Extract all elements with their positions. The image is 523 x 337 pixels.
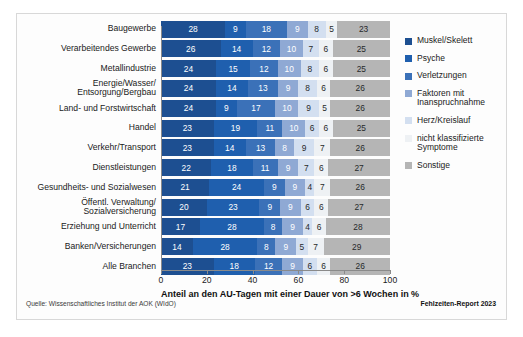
bar-segment: 7	[314, 139, 330, 156]
stacked-bar: 2124994726	[161, 179, 390, 196]
bar-segment: 9	[216, 100, 237, 117]
legend-label: Faktoren mit Inanspruchnahme	[417, 89, 485, 108]
category-label: Handel	[17, 123, 161, 132]
category-label: Dienstleistungen	[17, 163, 161, 172]
legend-swatch-icon	[405, 38, 412, 45]
stacked-bar: 2891898523	[161, 21, 390, 38]
bar-segment: 7	[298, 159, 314, 176]
x-tick	[207, 270, 208, 274]
legend-item[interactable]: Muskel/Skelett	[405, 36, 515, 46]
legend-label: nicht klassifizierte Symptome	[417, 134, 484, 153]
bar-segment: 26	[161, 40, 221, 57]
bar-segment: 6	[314, 199, 328, 216]
bar-segment: 10	[275, 100, 298, 117]
bar-segment: 8	[275, 139, 293, 156]
bar-segment: 26	[330, 100, 390, 117]
bar-segment: 19	[214, 120, 258, 137]
bar-segment: 7	[308, 238, 324, 255]
bar-segment: 27	[328, 159, 390, 176]
chart-legend: Muskel/SkelettPsycheVerletzungenFaktoren…	[405, 36, 515, 178]
bar-segment: 9	[264, 179, 285, 196]
bar-segment: 9	[298, 100, 319, 117]
bar-segment: 12	[250, 60, 277, 77]
bar-segment: 24	[161, 60, 216, 77]
legend-swatch-icon	[405, 73, 412, 80]
bar-segment: 9	[275, 238, 296, 255]
legend-label: Muskel/Skelett	[417, 36, 472, 46]
bar-segment: 13	[246, 139, 276, 156]
bar-segment: 14	[221, 40, 253, 57]
bar-segment: 21	[161, 179, 209, 196]
stacked-bar: 1728894628	[161, 218, 390, 235]
bar-segment: 23	[161, 120, 214, 137]
category-label: Erziehung und Unterricht	[17, 222, 161, 231]
legend-label: Sonstige	[417, 161, 450, 171]
stacked-bar: 261412107625	[161, 40, 390, 57]
legend-item[interactable]: Herz/Kreislauf	[405, 116, 515, 126]
x-tick-label: 80	[339, 275, 349, 285]
bar-segment: 9	[282, 218, 303, 235]
bar-segment: 10	[278, 60, 301, 77]
legend-item[interactable]: nicht klassifizierte Symptome	[405, 134, 515, 153]
bar-segment: 11	[257, 120, 282, 137]
legend-label: Herz/Kreislauf	[417, 116, 470, 126]
legend-item[interactable]: Verletzungen	[405, 71, 515, 81]
bar-segment: 12	[253, 40, 280, 57]
category-label: Verkehr/Transport	[17, 143, 161, 152]
bar-segment: 11	[253, 159, 278, 176]
bar-segment: 5	[296, 238, 307, 255]
x-tick-label: 20	[202, 275, 212, 285]
legend-item[interactable]: Sonstige	[405, 161, 515, 171]
bar-segment: 23	[207, 199, 260, 216]
chart-card: Baugewerbe2891898523Verarbeitendes Gewer…	[16, 13, 507, 320]
x-tick	[161, 270, 162, 274]
category-label: Verarbeitendes Gewerbe	[17, 44, 161, 53]
stacked-bar: 23141389726	[161, 139, 390, 156]
bar-segment: 6	[319, 120, 333, 137]
bar-segment: 17	[237, 100, 276, 117]
bar-segment: 6	[317, 80, 331, 97]
chart-row: Banken/Versicherungen1428895729	[17, 238, 508, 256]
source-note: Quelle: Wissenschaftliches Institut der …	[26, 300, 176, 307]
bar-segment: 14	[216, 80, 248, 97]
legend-item[interactable]: Psyche	[405, 54, 515, 64]
bar-segment: 14	[161, 238, 193, 255]
category-label: Banken/Versicherungen	[17, 242, 161, 251]
bar-segment: 29	[324, 238, 390, 255]
bar-segment: 9	[280, 199, 301, 216]
legend-swatch-icon	[405, 162, 412, 169]
legend-label: Psyche	[417, 54, 445, 64]
bar-segment: 4	[305, 179, 314, 196]
bar-segment: 9	[278, 159, 299, 176]
bar-segment: 24	[209, 179, 264, 196]
category-label: Energie/Wasser/ Entsorgung/Bergbau	[17, 79, 161, 97]
bar-segment: 6	[301, 199, 315, 216]
x-tick-label: 60	[294, 275, 304, 285]
bar-segment: 28	[326, 218, 390, 235]
legend-swatch-icon	[405, 117, 412, 124]
category-label: Baugewerbe	[17, 24, 161, 33]
bar-segment: 22	[161, 159, 211, 176]
bar-segment: 15	[216, 60, 250, 77]
bar-segment: 18	[246, 21, 287, 38]
legend-swatch-icon	[405, 55, 412, 62]
y-axis-line	[161, 26, 162, 270]
bar-segment: 5	[326, 21, 337, 38]
bar-segment: 7	[314, 179, 330, 196]
bar-segment: 4	[303, 218, 312, 235]
bar-segment: 8	[308, 21, 326, 38]
category-label: Land- und Forstwirtschaft	[17, 104, 161, 113]
legend-label: Verletzungen	[417, 71, 467, 81]
bar-segment: 20	[161, 199, 207, 216]
bar-segment: 6	[314, 159, 328, 176]
x-tick	[298, 270, 299, 274]
legend-item[interactable]: Faktoren mit Inanspruchnahme	[405, 89, 515, 108]
x-tick	[344, 270, 345, 274]
bar-segment: 26	[330, 179, 390, 196]
bar-segment: 9	[225, 21, 246, 38]
bar-segment: 18	[211, 159, 252, 176]
stacked-bar: 24141398626	[161, 80, 390, 97]
stacked-bar: 241512108625	[161, 60, 390, 77]
legend-swatch-icon	[405, 135, 412, 142]
bar-segment: 5	[319, 100, 330, 117]
